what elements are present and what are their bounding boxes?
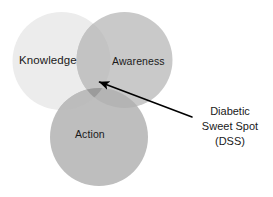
venn-diagram-figure: Knowledge Awareness Action Diabetic Swee… [0,0,273,197]
dss-callout-text: Diabetic Sweet Spot (DSS) [193,104,267,149]
dss-callout-line-3: (DSS) [193,134,267,149]
dss-callout-line-1: Diabetic [193,104,267,119]
dss-callout-line-2: Sweet Spot [193,119,267,134]
venn-label-awareness: Awareness [112,56,165,67]
venn-label-action: Action [75,129,105,140]
venn-label-knowledge: Knowledge [19,55,77,67]
venn-diagram-canvas [0,0,273,197]
